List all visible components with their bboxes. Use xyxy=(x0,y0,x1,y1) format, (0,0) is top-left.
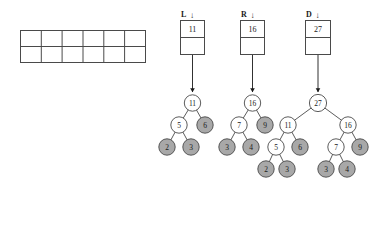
tree-D: 27 11 16 5 6 7 9 2 xyxy=(258,94,368,177)
tree-node[interactable]: 16 xyxy=(340,117,356,133)
binary-tree-diagram: L ↓ 11 R ↓ 16 D ↓ 27 11 xyxy=(0,0,389,228)
node-value: 16 xyxy=(249,99,257,108)
tree-node[interactable]: 27 xyxy=(309,94,326,111)
pointer-label-L: L xyxy=(181,10,186,19)
tree-node[interactable]: 4 xyxy=(339,161,355,177)
node-value: 3 xyxy=(225,143,229,152)
tree-node[interactable]: 7 xyxy=(231,117,247,133)
tree-node[interactable]: 7 xyxy=(328,139,344,155)
tree-L: 11 5 6 2 3 xyxy=(159,95,213,155)
pointer-box-R[interactable]: R ↓ 16 xyxy=(241,10,265,92)
pointer-box-L[interactable]: L ↓ 11 xyxy=(181,10,205,92)
array-grid xyxy=(21,31,146,63)
pointer-value-L: 11 xyxy=(189,25,197,34)
tree-node[interactable]: 9 xyxy=(352,139,368,155)
pointer-value-R: 16 xyxy=(249,25,257,34)
pointer-arrow-icon-R: ↓ xyxy=(251,11,255,20)
node-value: 4 xyxy=(249,143,253,152)
tree-node[interactable]: 3 xyxy=(318,161,334,177)
tree-node[interactable]: 5 xyxy=(268,139,284,155)
tree-node[interactable]: 9 xyxy=(257,117,273,133)
tree-node[interactable]: 5 xyxy=(171,117,187,133)
figure-canvas: L ↓ 11 R ↓ 16 D ↓ 27 11 xyxy=(0,0,389,228)
node-value: 3 xyxy=(189,143,193,152)
tree-node[interactable]: 3 xyxy=(219,139,235,155)
node-value: 6 xyxy=(298,143,302,152)
tree-R: 16 7 9 3 4 xyxy=(219,95,273,155)
pointer-arrow-icon-D: ↓ xyxy=(316,11,320,20)
tree-node[interactable]: 11 xyxy=(280,117,296,133)
node-value: 3 xyxy=(285,165,289,174)
node-value: 7 xyxy=(237,121,241,130)
node-value: 3 xyxy=(324,165,328,174)
node-value: 6 xyxy=(203,121,207,130)
node-value: 16 xyxy=(344,121,352,130)
node-value: 2 xyxy=(264,165,268,174)
tree-D-edges xyxy=(266,103,360,169)
tree-node[interactable]: 2 xyxy=(159,139,175,155)
node-value: 9 xyxy=(358,143,362,152)
tree-node[interactable]: 4 xyxy=(243,139,259,155)
tree-node[interactable]: 6 xyxy=(292,139,308,155)
node-value: 9 xyxy=(263,121,267,130)
pointer-label-R: R xyxy=(241,10,247,19)
node-value: 11 xyxy=(284,121,291,130)
tree-node[interactable]: 3 xyxy=(279,161,295,177)
tree-node[interactable]: 6 xyxy=(197,117,213,133)
tree-node[interactable]: 2 xyxy=(258,161,274,177)
node-value: 11 xyxy=(189,99,196,108)
node-value: 5 xyxy=(274,143,278,152)
pointer-label-D: D xyxy=(306,10,312,19)
node-value: 7 xyxy=(334,143,338,152)
pointer-value-D: 27 xyxy=(314,25,322,34)
pointer-box-D[interactable]: D ↓ 27 xyxy=(306,10,331,92)
node-value: 27 xyxy=(314,99,322,108)
pointer-arrow-icon-L: ↓ xyxy=(190,11,194,20)
tree-node[interactable]: 3 xyxy=(183,139,199,155)
tree-node[interactable]: 16 xyxy=(244,95,260,111)
node-value: 4 xyxy=(345,165,349,174)
tree-node[interactable]: 11 xyxy=(184,95,200,111)
node-value: 5 xyxy=(177,121,181,130)
node-value: 2 xyxy=(165,143,169,152)
